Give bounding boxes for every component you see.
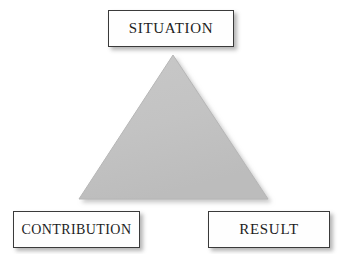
node-box-result[interactable]: RESULT	[208, 211, 330, 248]
diagram-canvas: SITUATION CONTRIBUTION RESULT	[0, 0, 342, 254]
node-box-situation[interactable]: SITUATION	[108, 10, 234, 47]
node-label-situation: SITUATION	[129, 21, 214, 36]
triangle-shape	[79, 55, 268, 199]
node-box-contribution[interactable]: CONTRIBUTION	[13, 211, 140, 248]
node-label-contribution: CONTRIBUTION	[22, 223, 132, 237]
node-label-result: RESULT	[239, 222, 299, 237]
